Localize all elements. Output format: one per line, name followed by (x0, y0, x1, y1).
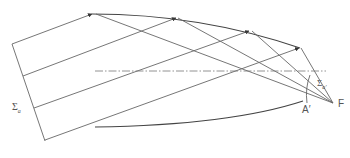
reflected-ray-2 (178, 18, 333, 103)
incident-ray-4 (45, 48, 299, 140)
reflected-ray-4 (301, 48, 333, 103)
reflector-surface (92, 14, 300, 48)
ray-diagram (0, 0, 350, 158)
label-focus: F (338, 99, 344, 109)
label-reflected-wavefront: Σa' (317, 79, 327, 90)
reflected-ray-3 (252, 31, 333, 103)
incident-ray-1 (12, 14, 92, 44)
incident-ray-3 (34, 31, 249, 108)
incident-ray-2 (23, 18, 176, 76)
lower-reflector-arc (95, 101, 303, 127)
label-incident-wavefront: Σa (12, 102, 21, 114)
incident-wavefront-line (12, 44, 45, 141)
label-point-a-prime: A′ (302, 105, 311, 115)
reflected-ray-1 (96, 14, 333, 103)
